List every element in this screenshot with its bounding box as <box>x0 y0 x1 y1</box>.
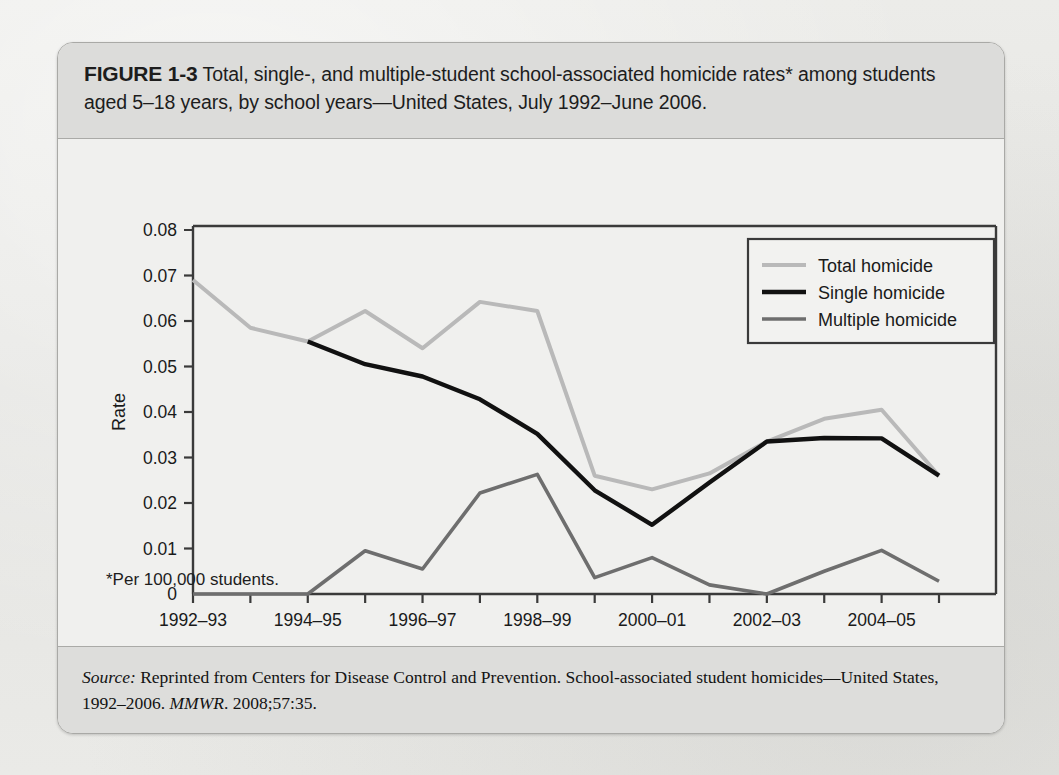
figure-header: FIGURE 1-3 Total, single-, and multiple-… <box>58 43 1004 139</box>
y-tick-label: 0.07 <box>143 266 177 286</box>
x-tick-label: 1998–99 <box>503 610 571 630</box>
y-axis-title: Rate <box>109 393 129 431</box>
chart-region: 00.010.020.030.040.050.060.070.081992–93… <box>58 139 1004 646</box>
source-text: Source: Reprinted from Centers for Disea… <box>82 664 980 717</box>
y-tick-label: 0.01 <box>143 539 177 559</box>
x-tick-label: 1994–95 <box>274 610 342 630</box>
x-tick-label: 1996–97 <box>388 610 456 630</box>
figure-panel: FIGURE 1-3 Total, single-, and multiple-… <box>57 42 1005 734</box>
y-tick-label: 0.03 <box>143 448 177 468</box>
source-prefix: Source: <box>82 667 136 687</box>
legend-label: Total homicide <box>818 256 933 276</box>
y-tick-label: 0.04 <box>143 402 177 422</box>
figure-footnote: *Per 100,000 students. <box>106 570 279 590</box>
series-line <box>193 474 939 594</box>
x-tick-label: 2000–01 <box>618 610 686 630</box>
source-journal: MMWR <box>170 693 224 713</box>
legend-label: Multiple homicide <box>818 310 957 330</box>
series-line <box>308 341 939 524</box>
y-tick-label: 0.02 <box>143 493 177 513</box>
y-tick-label: 0.08 <box>143 220 177 240</box>
y-tick-label: 0.05 <box>143 357 177 377</box>
source-body-2: . 2008;57:35. <box>224 693 317 713</box>
legend-label: Single homicide <box>818 283 945 303</box>
x-tick-label: 1992–93 <box>159 610 227 630</box>
figure-caption-text: Total, single-, and multiple-student sch… <box>84 63 935 113</box>
x-tick-label: 2004–05 <box>848 610 916 630</box>
figure-caption: FIGURE 1-3 Total, single-, and multiple-… <box>84 59 978 117</box>
figure-label: FIGURE 1-3 <box>84 62 198 85</box>
x-tick-label: 2002–03 <box>733 610 801 630</box>
source-band: Source: Reprinted from Centers for Disea… <box>58 646 1004 733</box>
y-tick-label: 0.06 <box>143 311 177 331</box>
